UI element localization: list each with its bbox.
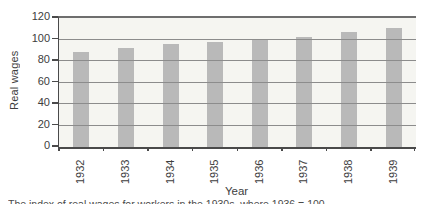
gridline-20 — [59, 125, 416, 126]
bar-1939 — [386, 28, 402, 147]
y-axis-tick-labels: 020406080100120 — [0, 16, 50, 145]
bar-1938 — [341, 32, 357, 147]
gridline-40 — [59, 103, 416, 104]
y-tick-label-100: 100 — [0, 32, 50, 45]
gridline-80 — [59, 60, 416, 61]
y-tick-label-40: 40 — [0, 96, 50, 109]
x-category-label-1935: 1935 — [206, 151, 222, 184]
bar-chart: Real wages 020406080100120 1932193319341… — [0, 0, 423, 204]
y-tick-label-80: 80 — [0, 53, 50, 66]
x-category-label-1936: 1936 — [251, 151, 267, 184]
caption-cropped: The index of real wages for workers in t… — [8, 198, 420, 204]
x-category-label-1939: 1939 — [385, 151, 401, 184]
y-tick-label-60: 60 — [0, 75, 50, 88]
y-tick-label-20: 20 — [0, 118, 50, 131]
x-axis-title: Year — [58, 185, 415, 197]
x-category-label-1937: 1937 — [295, 151, 311, 184]
bar-1933 — [118, 48, 134, 147]
y-tick-label-0: 0 — [0, 139, 50, 152]
y-tick-label-120: 120 — [0, 10, 50, 23]
bar-1932 — [73, 52, 89, 147]
bar-1937 — [296, 37, 312, 147]
x-axis-category-labels: 19321933193419351936193719381939 — [58, 151, 415, 184]
x-category-label-1938: 1938 — [340, 151, 356, 184]
gridline-100 — [59, 39, 416, 40]
plot-area — [58, 16, 416, 149]
x-category-label-1934: 1934 — [162, 151, 178, 184]
bar-1935 — [207, 42, 223, 147]
x-category-label-1932: 1932 — [72, 151, 88, 184]
gridline-60 — [59, 82, 416, 83]
bar-1936 — [252, 40, 268, 148]
x-category-label-1933: 1933 — [117, 151, 133, 184]
